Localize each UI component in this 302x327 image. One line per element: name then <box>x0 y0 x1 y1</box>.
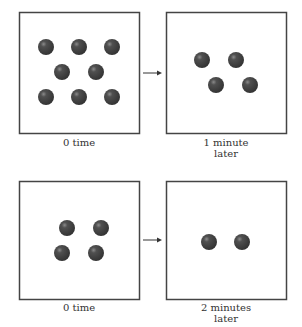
molecule-ball <box>88 245 104 261</box>
panel-label-bottom-left: 0 time <box>19 302 139 313</box>
molecule-ball <box>208 77 224 93</box>
molecule-ball <box>93 220 109 236</box>
panel-frame <box>20 182 140 300</box>
panel-label-top-left: 0 time <box>19 137 139 148</box>
molecule-ball <box>228 52 244 68</box>
molecule-ball <box>201 234 217 250</box>
panel-label-bottom-right: 2 minutes later <box>166 302 286 324</box>
molecule-ball <box>104 39 120 55</box>
molecule-ball <box>104 89 120 105</box>
molecule-ball <box>88 64 104 80</box>
panel-top-right <box>167 13 287 134</box>
panel-frame <box>167 13 287 134</box>
molecule-ball <box>71 89 87 105</box>
molecule-ball <box>242 77 258 93</box>
molecule-ball <box>59 220 75 236</box>
panel-frame <box>167 182 287 300</box>
molecule-ball <box>38 89 54 105</box>
molecule-ball <box>54 64 70 80</box>
panel-frame <box>20 13 140 134</box>
molecule-ball <box>234 234 250 250</box>
molecule-ball <box>38 39 54 55</box>
molecule-ball <box>194 52 210 68</box>
panel-label-top-right: 1 minute later <box>166 137 286 159</box>
arrow-icon <box>143 238 162 243</box>
panel-bottom-right <box>167 182 287 300</box>
diagram-canvas <box>0 0 302 327</box>
molecule-ball <box>71 39 87 55</box>
panel-bottom-left <box>20 182 140 300</box>
molecule-ball <box>54 245 70 261</box>
panel-top-left <box>20 13 140 134</box>
arrow-icon <box>143 71 162 76</box>
